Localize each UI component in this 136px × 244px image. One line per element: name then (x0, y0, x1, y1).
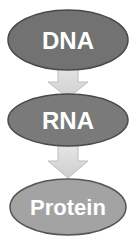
flow-diagram: DNA RNA Protein (0, 0, 136, 244)
node-label-dna: DNA (42, 27, 94, 54)
node-label-protein: Protein (30, 195, 106, 220)
node-dna: DNA (8, 10, 128, 70)
down-arrow-icon (48, 146, 88, 178)
node-label-rna: RNA (42, 107, 94, 134)
node-rna: RNA (8, 94, 128, 146)
node-protein: Protein (10, 179, 126, 235)
